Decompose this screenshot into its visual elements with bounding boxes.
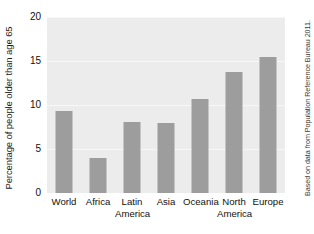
bar[interactable] xyxy=(158,123,175,193)
x-tick-label: Europe xyxy=(251,196,285,208)
y-tick-label: 15 xyxy=(30,56,41,66)
x-tick-label-line1: Oceania xyxy=(183,196,219,207)
x-tick-label-line1: Asia xyxy=(157,196,176,207)
x-tick-label-line2: America xyxy=(115,208,149,220)
bar-chart-figure: Percentage of people older than age 65 0… xyxy=(0,0,314,234)
x-tick-label: LatinAmerica xyxy=(115,196,149,220)
bar-slot xyxy=(183,17,217,193)
bar-slot xyxy=(217,17,251,193)
bar-series xyxy=(47,17,285,193)
bar[interactable] xyxy=(192,99,209,193)
y-axis-tick-labels: 05101520 xyxy=(0,0,47,234)
bar[interactable] xyxy=(56,111,73,193)
bar-slot xyxy=(149,17,183,193)
x-tick-label-line1: Europe xyxy=(253,196,284,207)
x-tick-label-line1: World xyxy=(52,196,77,207)
x-tick-label: NorthAmerica xyxy=(217,196,251,220)
x-tick-label: Africa xyxy=(81,196,115,208)
x-tick-label-line1: Latin xyxy=(122,196,143,207)
y-tick-label: 0 xyxy=(35,188,41,198)
x-tick-label-line2: America xyxy=(217,208,251,220)
x-tick-label-line1: Africa xyxy=(86,196,111,207)
y-tick-label: 20 xyxy=(30,12,41,22)
x-tick-label-line1: North xyxy=(222,196,245,207)
x-tick-label: Oceania xyxy=(183,196,217,208)
y-tick-label: 5 xyxy=(35,144,41,154)
plot-area xyxy=(47,17,285,193)
bar-slot xyxy=(81,17,115,193)
x-tick-label: Asia xyxy=(149,196,183,208)
x-tick-label: World xyxy=(47,196,81,208)
bar[interactable] xyxy=(260,57,277,193)
bar-slot xyxy=(115,17,149,193)
x-axis-tick-labels: WorldAfricaLatinAmericaAsiaOceaniaNorthA… xyxy=(47,196,285,234)
bar[interactable] xyxy=(90,158,107,193)
bar-slot xyxy=(47,17,81,193)
bar-slot xyxy=(251,17,285,193)
y-tick-label: 10 xyxy=(30,100,41,110)
source-note: Based on data from Population Reference … xyxy=(302,6,313,196)
bar[interactable] xyxy=(226,72,243,193)
bar[interactable] xyxy=(124,122,141,193)
